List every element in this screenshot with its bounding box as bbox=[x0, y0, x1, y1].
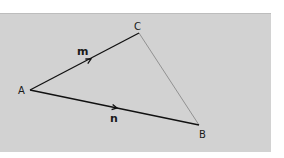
edge-cb bbox=[139, 33, 199, 125]
point-label-b: B bbox=[199, 129, 206, 140]
point-label-c: C bbox=[134, 21, 141, 32]
diagram-canvas: A C B m n bbox=[0, 0, 284, 158]
vector-label-m: m bbox=[77, 45, 88, 58]
edge-ac-vector-m bbox=[30, 33, 139, 90]
vector-label-n: n bbox=[110, 112, 118, 125]
point-label-a: A bbox=[18, 85, 25, 96]
triangle-diagram: A C B m n bbox=[0, 0, 284, 158]
